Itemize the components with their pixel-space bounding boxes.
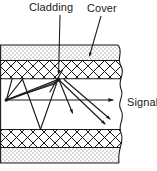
- waveguide-figure: Cladding Cover Signal: [0, 0, 157, 171]
- label-signal: Signal: [127, 96, 157, 108]
- waveguide-diagram-svg: [0, 0, 157, 171]
- cover-bottom-layer: [0, 148, 125, 164]
- label-cover: Cover: [87, 2, 117, 14]
- label-cladding: Cladding: [29, 1, 73, 13]
- cladding-bottom-layer: [0, 130, 125, 148]
- left-launch-point: [5, 98, 8, 101]
- layer-stack: [0, 45, 125, 164]
- core-layer: [0, 79, 125, 130]
- top-bounce-point: [57, 77, 61, 81]
- cover-top-layer: [0, 45, 125, 61]
